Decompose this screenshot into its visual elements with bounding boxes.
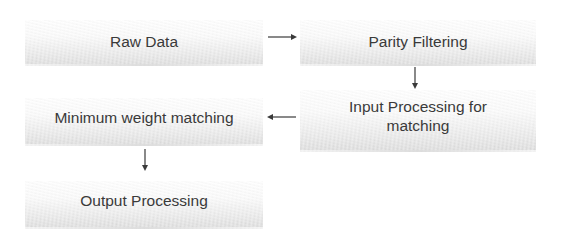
node-raw-data: Raw Data — [25, 20, 263, 66]
node-minimum-weight-matching: Minimum weight matching — [25, 98, 263, 146]
node-output-processing: Output Processing — [25, 181, 263, 229]
node-label-wrapper: Input Processing for matching — [349, 97, 487, 135]
node-input-processing: Input Processing for matching — [300, 90, 536, 152]
arrow-left-icon — [266, 112, 298, 122]
node-label: Raw Data — [110, 32, 178, 51]
arrow-right-icon — [266, 32, 298, 42]
node-label-line-2: matching — [349, 116, 487, 135]
node-label: Minimum weight matching — [54, 108, 233, 127]
node-label-line-1: Input Processing for — [349, 97, 487, 116]
node-label: Parity Filtering — [368, 32, 467, 51]
node-label: Output Processing — [80, 191, 208, 210]
node-parity-filtering: Parity Filtering — [300, 20, 536, 66]
arrow-down-icon — [410, 66, 420, 90]
arrow-down-icon — [140, 148, 150, 172]
